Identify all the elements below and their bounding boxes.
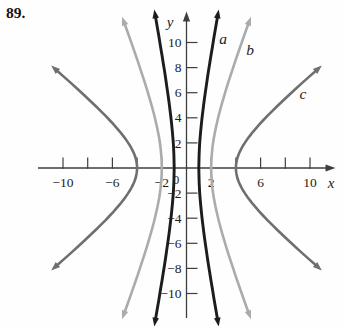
curve-b-arrow: [122, 310, 128, 320]
y-axis-arrow: [183, 12, 190, 22]
y-tick-label: 8: [175, 60, 182, 75]
curve-a-arrow: [153, 317, 160, 326]
y-tick-label: −8: [167, 261, 182, 276]
x-tick-label: 10: [303, 175, 317, 190]
x-axis-label: x: [327, 175, 335, 191]
curve-a-arrow: [153, 9, 160, 18]
y-tick-label: 6: [175, 85, 182, 100]
y-tick-label: 2: [175, 136, 182, 151]
y-tick-label: 10: [168, 35, 182, 50]
curve-a-arrow: [214, 317, 221, 326]
curve-b-arrow: [245, 17, 251, 27]
curve-label-a: a: [219, 30, 227, 47]
figure-container: 89. −10−6−22610108642−2−4−6−8−10yx0abc: [0, 0, 342, 326]
x-axis-arrow: [326, 164, 336, 171]
y-axis-label: y: [165, 14, 174, 30]
curve-a-arrow: [214, 9, 221, 18]
x-tick-label: −6: [105, 175, 120, 190]
hyperbola-graph: −10−6−22610108642−2−4−6−8−10yx0abc: [0, 0, 342, 326]
x-tick-label: −10: [52, 175, 73, 190]
curve-label-b: b: [246, 41, 254, 58]
curve-label-c: c: [300, 85, 307, 102]
curve-b-arrow: [245, 310, 251, 320]
y-tick-label: 4: [175, 110, 182, 125]
y-tick-label: −10: [160, 286, 181, 301]
x-tick-label: 6: [257, 175, 264, 190]
curve-b-arrow: [122, 17, 128, 27]
